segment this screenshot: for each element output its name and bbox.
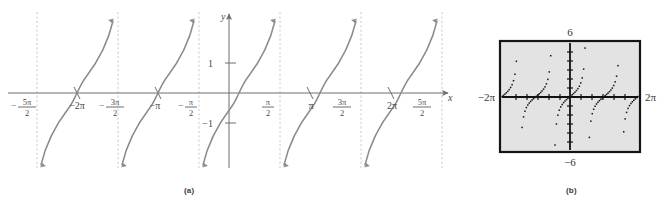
calc-plot-dot: [513, 80, 515, 82]
x-tick-label-5pi-2-num: 5π: [418, 97, 427, 107]
x-tick-label-neg2pi: −2π: [69, 100, 85, 111]
x-tick-label-2pi: 2π: [387, 100, 397, 111]
calc-plot-dot: [507, 91, 509, 93]
x-tick-label-pi-2: π 2: [262, 97, 274, 118]
calc-plot-dot: [529, 102, 531, 104]
calc-plot-dot: [508, 89, 510, 91]
calc-plot-dot: [607, 92, 609, 94]
calc-plot-dot: [560, 106, 562, 108]
x-tick-label-neg-pi-2-sign: −: [178, 100, 183, 110]
calc-plot-dot: [584, 47, 586, 49]
calc-plot-dot: [536, 96, 538, 98]
calc-plot-dot: [504, 93, 506, 95]
calc-plot-dot: [539, 93, 541, 95]
calc-plot-dot: [554, 144, 556, 146]
calc-plot-dot: [591, 113, 593, 115]
x-tick-label-neg-5pi-2-sign: −: [11, 100, 16, 110]
calc-plot-dot: [599, 100, 601, 102]
figure-root: x y 1 −1 − 5π 2 −2π − 3π 2 −π − π: [0, 0, 664, 208]
calc-plot-dot: [613, 85, 615, 87]
calc-plot-dot: [579, 85, 581, 87]
calc-plot-dot: [603, 96, 605, 98]
calc-plot-dot: [609, 91, 611, 93]
calc-plot-dot: [614, 81, 616, 83]
calc-plot-dot: [523, 116, 525, 118]
calc-plot-dot: [549, 71, 551, 73]
x-tick-label-5pi-2: 5π 2: [413, 97, 431, 118]
calc-plot-dot: [524, 110, 526, 112]
calc-plot-dot: [606, 94, 608, 96]
calc-plot-dot: [547, 79, 549, 81]
calc-plot-dot: [583, 68, 585, 70]
calc-plot-dot: [563, 102, 565, 104]
x-tick-label-pi-2-num: π: [266, 97, 271, 107]
calc-plot-dot: [567, 98, 569, 100]
calc-plot-dot: [550, 55, 552, 57]
calc-plot-dot: [516, 61, 518, 63]
calc-plot-dot: [557, 114, 559, 116]
x-tick-label-5pi-2-den: 2: [420, 108, 424, 118]
calc-plot-dot: [564, 100, 566, 102]
calc-xmin-label: −2π: [478, 91, 496, 103]
calc-plot-dot: [610, 89, 612, 91]
calc-plot-dot: [527, 104, 529, 106]
calc-plot-dot: [629, 105, 631, 107]
calc-plot-dot: [600, 99, 602, 101]
panel-b-svg: 6 −6 −2π 2π: [460, 0, 664, 208]
x-tick-label-neg-pi-2-den: 2: [189, 108, 193, 118]
calc-plot-dot: [581, 77, 583, 79]
calc-plot-dot: [511, 84, 513, 86]
calc-plot-dot: [534, 97, 536, 99]
calc-plot-dot: [612, 87, 614, 89]
calc-plot-dot: [596, 103, 598, 105]
x-tick-label-negpi: −π: [150, 100, 161, 111]
calc-plot-dot: [541, 90, 543, 92]
calc-plot-dot: [559, 109, 561, 111]
calc-plot-dot: [617, 65, 619, 67]
calc-plot-dot: [543, 88, 545, 90]
calc-plot-dot: [597, 101, 599, 103]
calc-plot-dot: [637, 96, 639, 98]
panel-b-calculator-screen: 6 −6 −2π 2π: [460, 0, 664, 208]
calc-plot-dot: [569, 96, 571, 98]
x-tick-label-neg-pi-2: − π 2: [178, 97, 197, 118]
panel-a-caption: (a): [184, 186, 194, 195]
x-tick-label-neg-5pi-2: − 5π 2: [11, 97, 36, 118]
x-tick-label-neg-3pi-2: − 3π 2: [99, 97, 124, 118]
calc-plot-dot: [636, 97, 638, 99]
x-tick-label-pi-2-den: 2: [266, 108, 270, 118]
calc-plot-dot: [571, 94, 573, 96]
calc-plot-dot: [634, 98, 636, 100]
calc-plot-dot: [510, 87, 512, 89]
x-tick-label-neg-3pi-2-num: 3π: [111, 97, 120, 107]
calc-plot-dot: [590, 120, 592, 122]
calc-plot-dot: [537, 94, 539, 96]
calc-plot-dot: [566, 99, 568, 101]
x-tick-label-3pi-2-num: 3π: [338, 97, 347, 107]
calc-plot-dot: [506, 92, 508, 94]
calc-plot-dot: [556, 123, 558, 125]
calc-plot-dot: [526, 107, 528, 109]
calc-xmax-label: 2π: [645, 91, 657, 103]
calc-plot-dot: [570, 95, 572, 97]
x-tick-label-3pi-2-den: 2: [340, 108, 344, 118]
calc-plot-dot: [540, 92, 542, 94]
calc-plot-dot: [624, 118, 626, 120]
calc-plot-dot: [530, 101, 532, 103]
panel-a-tangent-graph: x y 1 −1 − 5π 2 −2π − 3π 2 −π − π: [0, 0, 460, 208]
calc-plot-dot: [521, 127, 523, 128]
panel-a-svg: x y 1 −1 − 5π 2 −2π − 3π 2 −π − π: [0, 0, 460, 208]
calc-plot-dot: [627, 108, 629, 110]
calc-plot-dot: [503, 95, 505, 97]
calc-plot-dot: [577, 88, 579, 90]
y-tick-label-neg1: −1: [202, 118, 213, 129]
calc-ymax-label: 6: [567, 26, 573, 38]
x-axis-label: x: [447, 92, 453, 103]
x-tick-label-neg-pi-2-num: π: [189, 97, 194, 107]
calc-plot-dot: [626, 112, 628, 114]
y-axis-label: y: [220, 11, 226, 22]
x-tick-label-neg-3pi-2-den: 2: [113, 108, 117, 118]
x-tick-label-neg-5pi-2-num: 5π: [23, 97, 32, 107]
calc-plot-dot: [531, 99, 533, 101]
calc-plot-dot: [573, 93, 575, 95]
